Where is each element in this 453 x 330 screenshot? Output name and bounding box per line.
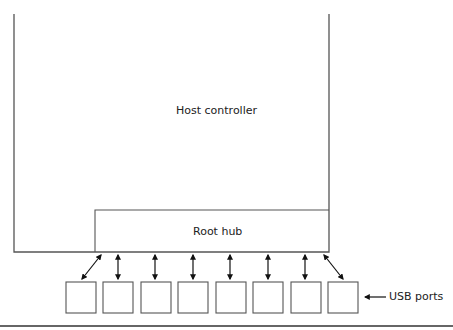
usb-port <box>103 282 133 313</box>
usb-port <box>141 282 171 313</box>
usb-ports-label: USB ports <box>389 290 443 303</box>
usb-port <box>178 282 208 313</box>
diagonal-arrow-right <box>324 255 343 279</box>
usb-port <box>216 282 246 313</box>
root-hub-label: Root hub <box>193 225 242 238</box>
host-controller-label: Host controller <box>176 104 257 117</box>
usb-diagram-canvas <box>0 0 453 330</box>
usb-port <box>291 282 321 313</box>
usb-port <box>253 282 283 313</box>
usb-port <box>66 282 96 313</box>
usb-port <box>328 282 358 313</box>
diagonal-arrow-left <box>82 255 101 279</box>
host-controller-box <box>14 14 329 252</box>
usb-port-boxes <box>66 282 358 313</box>
connection-arrows <box>82 255 343 279</box>
